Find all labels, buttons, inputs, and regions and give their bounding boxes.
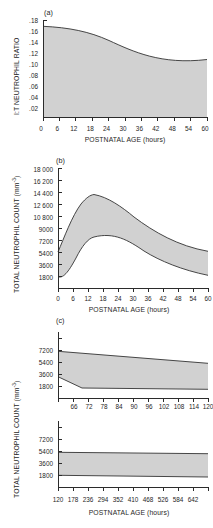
panel-c-bottom-xtick-6: 410 — [125, 496, 141, 503]
panel-c-top-ytick-2: 3600 — [22, 371, 53, 378]
panel-a-xtick-6: 30 — [117, 125, 129, 132]
panel-c-bottom-y-axis-title-sup: -3 — [12, 383, 17, 387]
panel-b-band — [58, 195, 208, 278]
panel-a-x-axis-title-unit: (hours) — [143, 136, 165, 143]
panel-a-ytick-5: .10 — [14, 61, 38, 68]
panel-b-xtick-10: 54 — [187, 295, 199, 302]
panel-a-ytick-1: .02 — [14, 105, 38, 112]
panel-c-bottom-xtick-7: 468 — [140, 496, 156, 503]
panel-b-ytick-2: 3600 — [20, 262, 53, 269]
panel-b-y-axis-title-sup: -3 — [12, 178, 17, 182]
panel-c-bottom-ytick-1: 1800 — [22, 472, 53, 479]
panel-c-bottom-xtick-4: 294 — [95, 496, 111, 503]
panel-c-bottom-xtick-8: 526 — [155, 496, 171, 503]
panel-c-top-xtick-6: 96 — [142, 403, 156, 410]
panel-c-top-ytick-4: 7200 — [22, 347, 53, 354]
panel-c-bottom-ytick-3: 5400 — [22, 448, 53, 455]
panel-c-top: (c) 7200 5400 3600 1800 — [0, 316, 213, 408]
panel-a-xtick-2: 6 — [51, 125, 63, 132]
panel-c-bottom-xtick-5: 352 — [110, 496, 126, 503]
panel-a-band — [43, 26, 207, 117]
panel-b-ytick-5: 9000 — [20, 226, 53, 233]
panel-c-top-xtick-1: 66 — [67, 403, 81, 410]
panel-c-top-ytick-3: 5400 — [22, 359, 53, 366]
panel-c-bottom-y-axis-title-unit: (mm — [13, 388, 20, 402]
panel-b-ytick-9: 16 200 — [20, 178, 53, 185]
panel-a-letter: (a) — [44, 8, 53, 17]
panel-a-xtick-4: 18 — [84, 125, 96, 132]
panel-c-letter: (c) — [56, 316, 64, 325]
panel-a-xtick-9: 48 — [166, 125, 178, 132]
panel-c-top-xtick-5: 90 — [127, 403, 141, 410]
panel-c-bottom-y-axis-title: TOTAL NEUTROPHIL COUNT (mm-3) — [12, 381, 20, 498]
panel-c-top-xtick-8: 108 — [171, 403, 187, 410]
panel-c-top-xtick-4: 84 — [112, 403, 126, 410]
panel-b-ytick-3: 5400 — [20, 250, 53, 257]
panel-b-x-axis-title-unit: (hours) — [147, 306, 169, 313]
panel-c-bottom-plot — [56, 419, 210, 489]
panel-c-top-xtick-10: 120 — [200, 403, 213, 410]
panel-b-xtick-9: 48 — [172, 295, 184, 302]
panel-b-x-axis-title-main: POSTNATAL AGE — [89, 306, 145, 313]
panel-b: (b) TOTAL NEUTROPHIL COUNT (mm-3) 18 000… — [0, 148, 213, 306]
panel-b-ytick-6: 10 800 — [20, 214, 53, 221]
panel-b-xtick-3: 12 — [82, 295, 94, 302]
panel-a-xtick-11: 60 — [199, 125, 211, 132]
panel-c-bottom-xtick-2: 178 — [65, 496, 81, 503]
panel-c-bottom-ytick-2: 3600 — [22, 460, 53, 467]
panel-b-ytick-1: 1800 — [20, 274, 53, 281]
panel-b-xtick-11: 60 — [202, 295, 213, 302]
panel-b-ytick-10: 18 000 — [20, 166, 53, 173]
panel-a-ytick-9: .18 — [14, 17, 38, 24]
panel-c-bottom-ytick-4: 7200 — [22, 436, 53, 443]
panel-a-xtick-10: 54 — [183, 125, 195, 132]
panel-a-ytick-7: .14 — [14, 39, 38, 46]
panel-a-xtick-3: 12 — [68, 125, 80, 132]
panel-b-letter: (b) — [56, 156, 65, 165]
panel-a-ytick-4: .08 — [14, 72, 38, 79]
panel-c-bottom-x-axis-title: POSTNATAL AGE (hours) — [45, 509, 213, 516]
panel-b-plot — [56, 166, 210, 291]
panel-a-xtick-5: 24 — [101, 125, 113, 132]
panel-c-top-xtick-7: 102 — [156, 403, 172, 410]
panel-b-xtick-7: 36 — [142, 295, 154, 302]
panel-b-xtick-1: 0 — [52, 295, 64, 302]
panel-c-bottom-x-axis-title-unit: (hours) — [147, 509, 169, 516]
panel-c-bottom-xtick-9: 584 — [170, 496, 186, 503]
panel-c-bottom-xtick-10: 642 — [185, 496, 201, 503]
panel-a: (a) I:T NEUTROPHIL RATIO .18 .16 .14 .12… — [0, 0, 213, 148]
panel-b-ytick-8: 14 400 — [20, 190, 53, 197]
panel-a-ytick-3: .06 — [14, 83, 38, 90]
panel-a-x-axis-title: POSTNATAL AGE (hours) — [41, 136, 209, 143]
panel-b-xtick-8: 42 — [157, 295, 169, 302]
panel-a-ytick-2: .04 — [14, 94, 38, 101]
panel-c-top-ytick-1: 1800 — [22, 383, 53, 390]
panel-c-bottom-band — [58, 452, 208, 477]
panel-c-bottom-y-axis-title-tail: ) — [13, 381, 20, 383]
panel-b-xtick-6: 30 — [127, 295, 139, 302]
panel-a-plot — [41, 18, 209, 122]
panel-b-ytick-7: 12 600 — [20, 202, 53, 209]
panel-c-bottom-xtick-3: 236 — [80, 496, 96, 503]
panel-b-xtick-5: 24 — [112, 295, 124, 302]
panel-c-top-plot — [56, 330, 210, 400]
panel-a-ytick-6: .12 — [14, 50, 38, 57]
panel-c-bottom: TOTAL NEUTROPHIL COUNT (mm-3) 7200 5400 … — [0, 412, 213, 528]
panel-a-xtick-1: 0 — [35, 125, 47, 132]
panel-b-x-axis-title: POSTNATAL AGE (hours) — [45, 306, 213, 313]
panel-c-bottom-xtick-1: 120 — [50, 496, 66, 503]
panel-c-bottom-x-axis-title-main: POSTNATAL AGE — [89, 509, 145, 516]
panel-c-top-xtick-2: 72 — [82, 403, 96, 410]
panel-c-top-xtick-3: 78 — [97, 403, 111, 410]
panel-a-xtick-7: 36 — [133, 125, 145, 132]
panel-b-ytick-4: 7200 — [20, 238, 53, 245]
panel-b-xtick-4: 18 — [97, 295, 109, 302]
panel-c-bottom-y-axis-title-main: TOTAL NEUTROPHIL COUNT — [13, 403, 20, 498]
figure-container: (a) I:T NEUTROPHIL RATIO .18 .16 .14 .12… — [0, 0, 213, 528]
panel-a-xtick-8: 42 — [150, 125, 162, 132]
panel-a-ytick-8: .16 — [14, 28, 38, 35]
panel-b-xtick-2: 6 — [67, 295, 79, 302]
panel-a-x-axis-title-main: POSTNATAL AGE — [85, 136, 141, 143]
